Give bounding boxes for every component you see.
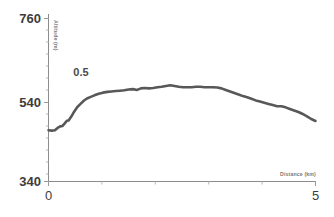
y-axis-title: Altitude (m) [53,20,59,51]
y-tick-label-mid: 540 [19,95,41,110]
x-tick-label-left: 0 [45,188,52,203]
chart-background [0,0,334,217]
x-axis-title: Distance (km) [280,171,316,177]
y-tick-label-bottom: 340 [19,174,41,189]
elevation-profile-chart: 760 540 340 0 5 Altitude (m) Distance (k… [0,0,334,217]
x-tick-label-right: 5 [312,188,319,203]
series-annotation-label: 0.5 [73,66,88,78]
chart-canvas: 760 540 340 0 5 Altitude (m) Distance (k… [0,0,334,217]
y-tick-label-top: 760 [19,11,41,26]
